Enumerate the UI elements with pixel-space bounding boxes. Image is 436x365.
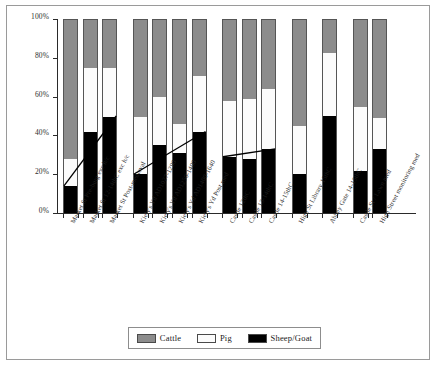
legend-item[interactable]: Cattle — [137, 333, 182, 343]
bar-segment-cattle — [223, 20, 236, 101]
bar-segment-pig — [153, 97, 166, 145]
bar-segment-cattle — [84, 20, 97, 68]
x-axis-tick-mark — [172, 213, 173, 218]
legend-label: Cattle — [160, 333, 182, 343]
stacked-bar[interactable] — [63, 19, 78, 213]
x-axis-tick-mark — [133, 213, 134, 218]
legend-label: Pig — [220, 333, 232, 343]
y-axis-tick-label: 80% — [35, 51, 49, 60]
cattle-swatch — [137, 334, 156, 343]
chart-figure: 0%20%40%60%80%100% Market St Pre-burg ex… — [0, 0, 436, 365]
y-axis-tick-mark — [53, 213, 57, 214]
chart-legend: CattlePigSheep/Goat — [128, 327, 321, 349]
legend-label: Sheep/Goat — [271, 333, 313, 343]
stacked-bar[interactable] — [242, 19, 257, 213]
bar-segment-cattle — [373, 20, 386, 118]
sheep-goat-swatch — [248, 334, 267, 343]
bar-segment-cattle — [293, 20, 306, 126]
bar-segment-pig — [373, 118, 386, 149]
bar-segment-cattle — [243, 20, 256, 99]
pig-swatch — [197, 334, 216, 343]
bar-segment-cattle — [173, 20, 186, 124]
bar-segment-cattle — [193, 20, 206, 76]
bar-segment-sheep-goat — [323, 116, 336, 213]
legend-item[interactable]: Sheep/Goat — [248, 333, 313, 343]
x-axis-tick-mark — [102, 213, 103, 218]
y-axis-tick-label: 20% — [35, 167, 49, 176]
legend-item[interactable]: Pig — [197, 333, 232, 343]
x-axis-tick-mark — [63, 213, 64, 218]
y-axis-tick-label: 0% — [39, 206, 49, 215]
bar-segment-cattle — [354, 20, 367, 107]
x-axis-tick-mark — [83, 213, 84, 218]
x-axis-tick-mark — [152, 213, 153, 218]
bar-segment-pig — [173, 124, 186, 153]
bar-segment-pig — [64, 159, 77, 186]
bar-segment-pig — [262, 89, 275, 149]
bar-segment-cattle — [64, 20, 77, 159]
bar-segment-pig — [193, 76, 206, 132]
x-axis-tick-mark — [292, 213, 293, 218]
bar-segment-cattle — [134, 20, 147, 117]
x-axis-tick-mark — [372, 213, 373, 218]
bar-segment-pig — [354, 107, 367, 171]
y-axis-tick-label: 40% — [35, 128, 49, 137]
bar-segment-pig — [103, 68, 116, 116]
x-axis-tick-mark — [322, 213, 323, 218]
bar-segment-pig — [323, 53, 336, 117]
bar-segment-cattle — [323, 20, 336, 53]
bar-segment-pig — [243, 99, 256, 159]
bar-segment-cattle — [262, 20, 275, 89]
bar-segment-pig — [223, 101, 236, 157]
y-axis-tick-label: 60% — [35, 90, 49, 99]
bar-segment-sheep-goat — [223, 157, 236, 213]
bar-segment-sheep-goat — [243, 159, 256, 213]
bar-segment-pig — [84, 68, 97, 132]
x-axis-tick-mark — [242, 213, 243, 218]
bar-segment-cattle — [153, 20, 166, 97]
bar-segment-cattle — [103, 20, 116, 68]
y-axis-tick-label: 100% — [31, 12, 49, 21]
x-axis-tick-mark — [222, 213, 223, 218]
x-axis-tick-mark — [192, 213, 193, 218]
bar-segment-pig — [293, 126, 306, 174]
x-axis-tick-mark — [353, 213, 354, 218]
x-axis-tick-mark — [261, 213, 262, 218]
